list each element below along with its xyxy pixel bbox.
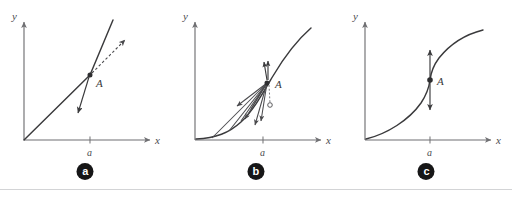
convex-curve	[196, 28, 311, 139]
panel-badge-c: c	[418, 163, 435, 180]
point-A-label: A	[274, 78, 282, 90]
panel-b-plot: y x a A	[171, 0, 342, 188]
x-axis-label: x	[154, 134, 160, 146]
panel-badge-a: a	[77, 163, 94, 180]
y-axis-label: y	[11, 10, 17, 22]
panel-a: y x a A a	[0, 0, 171, 188]
x-axis-label: x	[325, 134, 331, 146]
point-A-dot	[87, 73, 92, 78]
panel-c: y x a A c	[341, 0, 512, 188]
panel-a-plot: y x a A	[0, 0, 171, 188]
x-tick-label-a: a	[87, 147, 92, 158]
panel-badge-b: b	[247, 163, 264, 180]
tangent-arrow-up-1	[264, 62, 267, 80]
open-circle-marker	[267, 103, 272, 108]
x-axis-label: x	[495, 134, 501, 146]
right-derivative-dashed-arrow	[92, 40, 125, 73]
s-curve	[366, 30, 483, 139]
figure-root: y x a A a	[0, 0, 512, 197]
dashed-vertical-segment	[269, 85, 270, 103]
panel-c-plot: y x a A	[341, 0, 512, 188]
panel-b: y x a A b	[171, 0, 342, 188]
x-tick-label-a: a	[260, 147, 265, 158]
point-A-label: A	[95, 77, 103, 89]
point-A-dot	[264, 81, 269, 86]
y-axis-label: y	[182, 10, 188, 22]
point-A-dot	[427, 77, 433, 83]
curve-right-branch	[90, 20, 113, 75]
x-tick-label-a: a	[427, 147, 432, 158]
bottom-divider	[0, 189, 512, 190]
panel-row: y x a A a	[0, 0, 512, 188]
secant-line-2	[229, 83, 267, 131]
y-axis-label: y	[352, 10, 358, 22]
point-A-label: A	[436, 75, 444, 87]
